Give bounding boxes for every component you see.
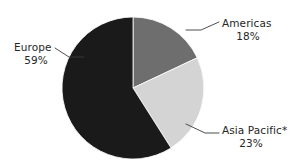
label-asia-pacific-name: Asia Pacific* [222,124,287,136]
pie-slices [62,17,204,159]
label-europe-percent: 59% [14,54,58,67]
label-asia-pacific: Asia Pacific* 23% [222,124,287,150]
label-americas-percent: 18% [222,30,274,43]
label-europe: Europe 59% [14,41,58,67]
label-americas-name: Americas [222,17,272,29]
label-asia-pacific-percent: 23% [222,137,280,150]
leader-line-americas [186,22,219,30]
label-europe-name: Europe [14,41,52,53]
pie-chart-figure: Americas 18% Europe 59% Asia Pacific* 23… [0,0,289,168]
label-americas: Americas 18% [222,17,274,43]
